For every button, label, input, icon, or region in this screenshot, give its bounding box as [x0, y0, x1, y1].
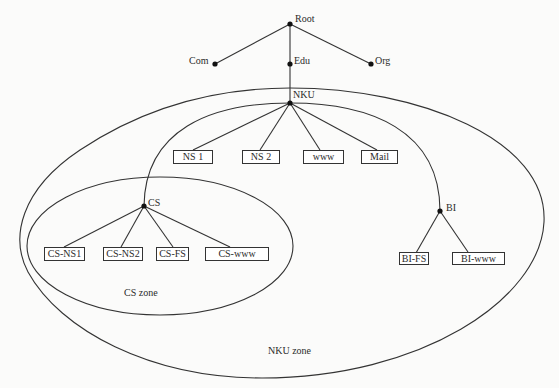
cs-node-dot: [141, 203, 146, 208]
server-box-www: www: [303, 150, 344, 164]
com-label: Com: [189, 55, 208, 67]
org-node-dot: [368, 61, 373, 66]
edge-bi-biwww: [440, 211, 468, 252]
edge-cs-cswww: [144, 206, 230, 247]
nku-zone-label: NKU zone: [268, 345, 311, 357]
cs-label: CS: [148, 197, 160, 209]
server-box-cs-ns2: CS-NS2: [103, 247, 143, 261]
root-node-dot: [287, 21, 292, 26]
diagram-graphics: [0, 0, 559, 388]
bi-node-dot: [437, 208, 442, 213]
edu-label: Edu: [294, 55, 310, 67]
root-label: Root: [295, 13, 314, 25]
server-box-bi-www: BI-www: [452, 252, 505, 265]
org-label: Org: [375, 55, 390, 67]
server-box-ns1: NS 1: [173, 150, 213, 164]
edge-nku-www: [290, 103, 320, 150]
com-node-dot: [212, 61, 217, 66]
edu-node-dot: [287, 61, 292, 66]
server-box-mail: Mail: [361, 150, 398, 164]
nku-label: NKU: [293, 89, 315, 101]
bi-label: BI: [446, 202, 456, 214]
server-box-cs-fs: CS-FS: [156, 247, 189, 261]
server-box-bi-fs: BI-FS: [399, 252, 429, 265]
server-box-cs-www: CS-www: [205, 247, 269, 261]
nku-zone-boundary: [20, 88, 544, 378]
server-box-ns2: NS 2: [242, 150, 280, 164]
dns-zone-diagram: Root Com Edu Org NKU CS BI NS 1 NS 2 www…: [0, 0, 559, 388]
edge-nku-mail: [290, 103, 377, 150]
edge-root-com: [215, 24, 290, 64]
server-box-cs-ns1: CS-NS1: [44, 247, 85, 261]
edge-bi-bifs: [416, 211, 440, 253]
nku-node-dot: [287, 100, 292, 105]
edge-cs-csfs: [144, 206, 173, 247]
cs-zone-label: CS zone: [124, 287, 158, 299]
